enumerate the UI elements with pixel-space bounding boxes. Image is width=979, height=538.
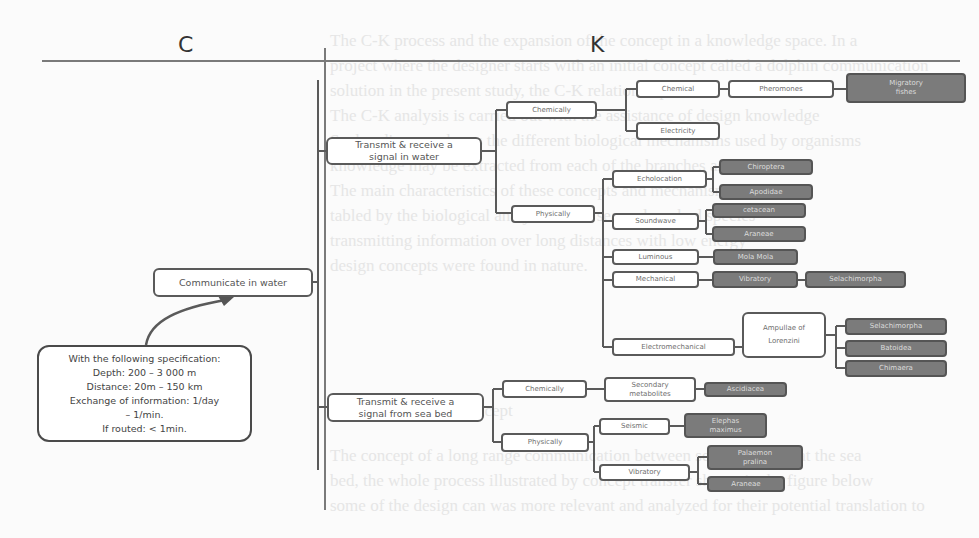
seabed-signal-box: Transmit & receive a signal from sea bed xyxy=(327,393,484,422)
vibratory-water-box: Vibratory xyxy=(712,271,798,288)
chemical-box: Chemical xyxy=(636,80,720,98)
electromechanical-box: Electromechanical xyxy=(612,338,735,356)
spec-routed: If routed: < 1min. xyxy=(102,422,186,436)
cetacean-box: cetacean xyxy=(712,203,806,218)
water-chemically-box: Chemically xyxy=(506,101,597,119)
spec-distance: Distance: 20m – 150 km xyxy=(87,380,203,394)
chiroptera-box: Chiroptera xyxy=(719,159,813,175)
specification-box: With the following specification: Depth:… xyxy=(37,345,252,442)
echolocation-box: Echolocation xyxy=(612,170,707,188)
ascidiacea-box: Ascidiacea xyxy=(704,382,787,397)
secondary-metabolites-box: Secondary metabolites xyxy=(604,377,696,402)
water-physically-box: Physically xyxy=(511,205,595,223)
spec-title: With the following specification: xyxy=(68,352,220,366)
chimaera-box: Chimaera xyxy=(845,360,947,377)
elephas-maximus-box: Elephas maximus xyxy=(684,413,767,438)
migratory-fishes-box: Migratory fishes xyxy=(846,73,966,103)
soundwave-box: Soundwave xyxy=(612,213,699,230)
araneae-seabed-box: Araneae xyxy=(707,476,785,492)
pheromones-box: Pheromones xyxy=(728,80,834,98)
vibratory-seabed-box: Vibratory xyxy=(599,464,690,481)
seabed-chemically-box: Chemically xyxy=(502,380,587,398)
spec-exchange: Exchange of information: 1/day xyxy=(70,394,219,408)
spec-depth: Depth: 200 – 3 000 m xyxy=(93,366,197,380)
root-concept-box: Communicate in water xyxy=(153,268,313,297)
apodidae-box: Apodidae xyxy=(719,184,813,200)
mola-mola-box: Mola Mola xyxy=(713,249,798,265)
luminous-box: Luminous xyxy=(612,249,699,265)
selachimorpha-mechanical-box: Selachimorpha xyxy=(805,271,906,288)
seabed-physically-box: Physically xyxy=(501,433,589,452)
batoidea-box: Batoidea xyxy=(845,340,947,357)
palaemon-pralina-box: Palaemon pralina xyxy=(707,445,803,470)
selachimorpha-box: Selachimorpha xyxy=(845,318,947,335)
araneae-water-box: Araneae xyxy=(712,226,806,242)
seismic-box: Seismic xyxy=(599,418,670,435)
spec-exchange-cont: – 1/min. xyxy=(126,408,164,422)
mechanical-box: Mechanical xyxy=(612,271,699,288)
water-signal-box: Transmit & receive a signal in water xyxy=(326,137,482,165)
ampullae-box: Ampullae of Lorenzini xyxy=(742,312,826,358)
electricity-box: Electricity xyxy=(636,122,720,140)
